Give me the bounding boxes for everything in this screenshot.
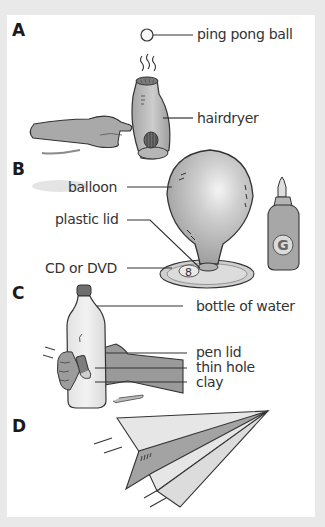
balloon-icon — [167, 150, 253, 271]
svg-text:8: 8 — [185, 266, 192, 279]
label-thin-hole: thin hole — [196, 360, 255, 374]
section-d-letter: D — [12, 418, 26, 435]
label-cd-or-dvd: CD or DVD — [45, 261, 117, 275]
section-b-letter: B — [12, 161, 25, 178]
section-c-letter: C — [12, 285, 24, 302]
label-balloon: balloon — [68, 180, 117, 194]
hot-air-icon — [141, 54, 156, 71]
label-bottle-of-water: bottle of water — [196, 299, 295, 313]
hand-icon — [30, 116, 132, 147]
ping-pong-ball-icon — [141, 29, 153, 41]
label-hairdryer: hairdryer — [197, 111, 258, 125]
section-a-letter: A — [12, 22, 25, 39]
paper-airplane-icon — [117, 411, 268, 507]
glue-bottle-icon: G — [268, 177, 299, 270]
svg-text:G: G — [277, 237, 289, 253]
label-clay: clay — [196, 375, 223, 389]
water-bottle-icon — [67, 285, 106, 408]
pen-refill-icon — [113, 395, 143, 403]
label-ping-pong-ball: ping pong ball — [197, 27, 293, 41]
label-pen-lid: pen lid — [196, 345, 241, 359]
label-plastic-lid: plastic lid — [55, 212, 119, 226]
